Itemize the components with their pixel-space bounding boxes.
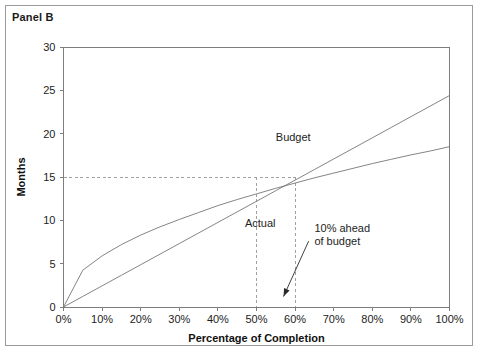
y-tick-label: 0 (49, 301, 55, 313)
x-tick-label: 0% (56, 313, 72, 325)
y-tick-label: 10 (43, 214, 55, 226)
series-label-actual: Actual (245, 217, 276, 229)
x-tick-label: 40% (207, 313, 229, 325)
axis-tick-labels: 0510152025300%10%20%30%40%50%60%70%80%90… (43, 41, 464, 325)
annotation-line-1: 10% ahead (314, 222, 370, 234)
annotation-arrow-shaft (284, 241, 309, 296)
x-tick-label: 30% (168, 313, 190, 325)
annotation-line-2: of budget (314, 235, 360, 247)
series-line-actual (64, 96, 450, 307)
series-label-budget: Budget (276, 131, 311, 143)
x-axis-title: Percentage of Completion (188, 332, 325, 344)
x-tick-label: 50% (245, 313, 267, 325)
x-tick-label: 100% (435, 313, 463, 325)
y-axis-title: Months (15, 157, 27, 196)
series-lines (64, 96, 450, 307)
chart-canvas: 0510152025300%10%20%30%40%50%60%70%80%90… (0, 0, 483, 355)
annotation-arrow (284, 241, 309, 296)
y-tick-label: 20 (43, 128, 55, 140)
x-tick-label: 20% (130, 313, 152, 325)
x-tick-label: 10% (91, 313, 113, 325)
annotation-arrow-head (284, 288, 290, 297)
axis-ticks (60, 47, 450, 311)
y-tick-label: 5 (49, 258, 55, 270)
x-tick-label: 90% (400, 313, 422, 325)
figure-root: Panel B 0510152025300%10%20%30%40%50%60%… (0, 0, 483, 355)
y-tick-label: 15 (43, 171, 55, 183)
y-tick-label: 30 (43, 41, 55, 53)
x-tick-label: 80% (361, 313, 383, 325)
x-tick-label: 60% (284, 313, 306, 325)
y-tick-label: 25 (43, 84, 55, 96)
x-tick-label: 70% (323, 313, 345, 325)
